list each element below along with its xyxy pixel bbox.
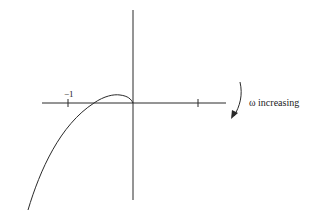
omega-increasing-label: ω increasing (249, 97, 299, 108)
tick-label-neg-one: −1 (64, 89, 74, 99)
direction-arrow (234, 82, 241, 116)
nyquist-curve (28, 95, 133, 210)
nyquist-plot: −1 ω increasing (0, 0, 309, 224)
